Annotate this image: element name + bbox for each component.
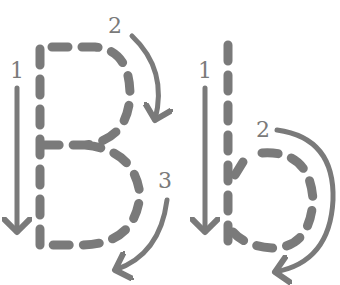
step-2-arrow-lower [275, 130, 333, 272]
uppercase-b-dashed-outline [40, 47, 140, 245]
step-1-number: 1 [10, 58, 24, 83]
step-3-number: 3 [158, 168, 172, 193]
step-1-number-lower: 1 [198, 58, 212, 83]
step-2-arrow [132, 36, 158, 120]
lowercase-b-bowl-dashed [233, 153, 313, 248]
lowercase-b-group: 1 2 [198, 45, 333, 272]
step-2-number-lower: 2 [256, 117, 270, 142]
tracing-worksheet: 1 2 3 1 2 [0, 0, 340, 285]
step-2-number: 2 [108, 13, 122, 38]
uppercase-b-group: 1 2 3 [10, 13, 172, 270]
